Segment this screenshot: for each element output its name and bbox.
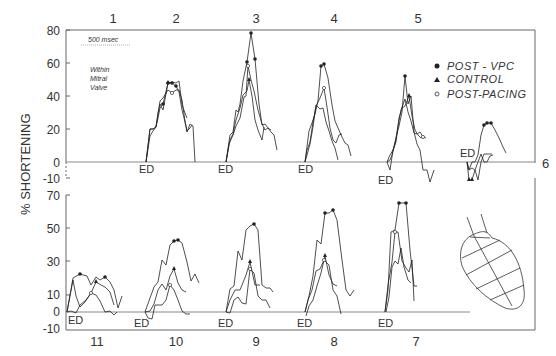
ytick-bottom-50: 50	[47, 222, 61, 236]
segment-label-7: 7	[412, 334, 419, 349]
ytick-bottom-70: 70	[47, 189, 61, 203]
segment-label-5: 5	[414, 11, 421, 26]
traces-bottom	[67, 203, 417, 319]
ed-label: ED	[68, 314, 83, 326]
ed-label: ED	[378, 317, 393, 329]
ed-label: ED	[134, 317, 149, 329]
legend-marker-post-vpc	[435, 64, 440, 69]
traces-top	[146, 33, 506, 182]
legend-post-vpc: POST - VPC	[447, 60, 514, 72]
note-line-1: Within	[90, 66, 109, 73]
segment-label-2: 2	[172, 11, 179, 26]
y-axis-label: % SHORTENING	[18, 113, 33, 215]
ytick-bottom-10: 10	[47, 288, 61, 302]
markers-bottom	[78, 201, 408, 294]
top-panel: 80 60 40 20 0 -10 1 2 3 4 5 6 500 msec W…	[43, 11, 550, 186]
segment-label-4: 4	[330, 11, 337, 26]
ytick-top-60: 60	[47, 57, 61, 71]
heart-diagram-icon	[460, 214, 524, 309]
legend-control: CONTROL	[447, 73, 504, 85]
ytick-top-neg10: -10	[43, 172, 61, 186]
ed-label: ED	[218, 163, 233, 175]
segment-label-1: 1	[109, 11, 116, 26]
segment-label-3: 3	[252, 11, 259, 26]
ytick-top-40: 40	[47, 90, 61, 104]
ytick-top-80: 80	[47, 24, 61, 38]
note-line-2: Mitral	[90, 75, 108, 82]
segment-label-11: 11	[90, 334, 104, 349]
legend-post-pacing: POST-PACING	[447, 88, 526, 100]
legend-marker-post-pacing	[435, 92, 439, 96]
ed-label: ED	[378, 174, 393, 186]
ytick-bottom-30: 30	[47, 255, 61, 269]
segment-label-9: 9	[252, 334, 259, 349]
ed-label: ED	[460, 147, 475, 159]
ed-label: ED	[298, 163, 313, 175]
segment-label-10: 10	[169, 334, 183, 349]
chart-figure: % SHORTENING 80 60 40 20 0 -10 1 2 3 4 5…	[0, 0, 556, 356]
segment-label-6: 6	[542, 156, 549, 171]
ed-label: ED	[139, 163, 154, 175]
segment-label-8: 8	[330, 334, 337, 349]
ytick-top-20: 20	[47, 123, 61, 137]
scale-bar-label: 500 msec	[88, 36, 119, 43]
note-line-3: Valve	[90, 84, 107, 91]
legend-marker-control	[434, 77, 440, 82]
ed-label: ED	[297, 317, 312, 329]
ed-label: ED	[218, 317, 233, 329]
ytick-top-0: 0	[53, 156, 60, 170]
ytick-bottom-neg10: -10	[43, 322, 61, 336]
ytick-bottom-0: 0	[53, 305, 60, 319]
